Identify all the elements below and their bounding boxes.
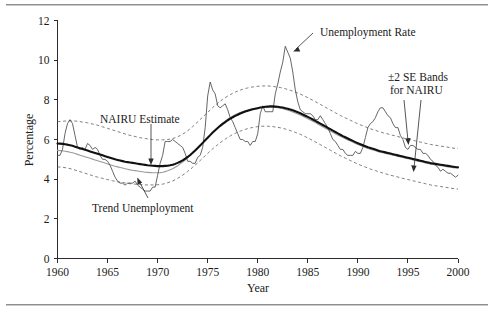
y-tick-label-0: 0 <box>44 253 50 265</box>
annotation-nairu-estimate: NAIRU Estimate <box>100 113 180 125</box>
x-tick-label-1960: 1960 <box>46 266 69 278</box>
unemployment-leader-line <box>296 33 313 49</box>
y-tick-label-4: 4 <box>44 173 50 185</box>
y-tick-label-8: 8 <box>44 94 50 106</box>
y-tick-label-6: 6 <box>44 134 50 146</box>
annotation-leaders <box>137 33 421 198</box>
trend-leader-line <box>139 181 148 198</box>
x-tick-label-1985: 1985 <box>296 266 319 278</box>
annotation-unemployment-rate: Unemployment Rate <box>320 26 416 39</box>
se-band-upper-leader-line <box>404 100 408 141</box>
trend-leader-arrow <box>137 178 142 185</box>
y-axis-tick-labels: 024681012 <box>38 15 50 265</box>
se-band-lower-leader-line <box>414 100 421 168</box>
y-tick-label-2: 2 <box>44 213 50 225</box>
nairu-chart: 024681012 196019651970197519801985199019… <box>0 0 494 314</box>
y-tick-label-10: 10 <box>38 54 50 66</box>
y-axis-ticks <box>54 21 58 259</box>
se-band-lower-line <box>58 126 459 189</box>
x-axis-title: Year <box>247 281 269 295</box>
annotation-trend-unemployment: Trend Unemployment <box>92 202 194 215</box>
x-axis-tick-labels: 196019651970197519801985199019952000 <box>46 266 470 278</box>
annotation-se-bands-line1: ±2 SE Bands <box>388 71 449 83</box>
x-tick-label-2000: 2000 <box>447 266 470 278</box>
unemployment-leader-arrow <box>293 47 300 52</box>
nairu-leader-arrow <box>148 158 153 165</box>
y-tick-label-12: 12 <box>38 15 50 27</box>
x-tick-label-1980: 1980 <box>246 266 269 278</box>
x-axis-ticks <box>58 259 459 263</box>
annotation-se-bands-line2: for NAIRU <box>390 84 443 96</box>
se-band-upper-leader-arrow <box>405 138 410 145</box>
x-tick-label-1995: 1995 <box>396 266 419 278</box>
x-tick-label-1975: 1975 <box>196 266 219 278</box>
x-tick-label-1990: 1990 <box>346 266 369 278</box>
x-tick-label-1970: 1970 <box>146 266 169 278</box>
x-tick-label-1965: 1965 <box>96 266 119 278</box>
se-band-lower-leader-arrow <box>411 165 416 172</box>
y-axis-title: Percentage <box>22 114 36 167</box>
figure-container: 024681012 196019651970197519801985199019… <box>0 0 494 314</box>
